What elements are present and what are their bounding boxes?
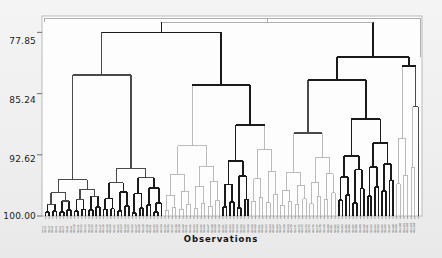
y-tick-label-3: 100.00 xyxy=(0,211,36,221)
x-axis-title: Observations xyxy=(0,234,442,244)
y-tick-label-0: 77.85 xyxy=(0,36,36,46)
y-axis-ticks xyxy=(37,32,42,216)
y-tick-label-2: 92.62 xyxy=(0,154,36,164)
dendrogram-figure: 77.85 85.24 92.62 100.00 Obs1Obs2Obs3Obs… xyxy=(0,0,442,258)
dendrogram-canvas xyxy=(0,0,442,258)
y-tick-label-1: 85.24 xyxy=(0,95,36,105)
